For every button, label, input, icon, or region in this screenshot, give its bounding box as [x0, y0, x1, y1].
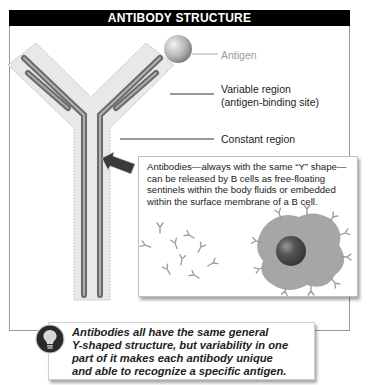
b-cell-illustration	[139, 205, 359, 297]
callout-line: and able to recognize a specific antigen…	[72, 365, 314, 378]
variable-region-sublabel: (antigen-binding site)	[221, 96, 319, 108]
b-cell-nucleus	[276, 236, 306, 266]
callout-text: Antibodies all have the same general Y-s…	[72, 326, 314, 378]
callout-line: Y-shaped structure, but variability in o…	[72, 339, 314, 352]
antigen-sphere	[164, 35, 192, 63]
info-line: can be released by B cells as free-float…	[147, 173, 355, 185]
info-line: sentinels within the body fluids or embe…	[147, 184, 355, 196]
callout-line: part of it makes each antibody unique	[72, 352, 314, 365]
info-line: Antibodies—always with the same “Y” shap…	[147, 161, 355, 173]
lightbulb-icon	[35, 324, 65, 354]
free-floating-antibodies	[140, 223, 218, 281]
variable-region-label: Variable region	[221, 83, 291, 95]
antibody-info-box: Antibodies—always with the same “Y” shap…	[138, 156, 358, 297]
key-concept-callout: Antibodies all have the same general Y-s…	[48, 322, 315, 380]
callout-line: Antibodies all have the same general	[72, 326, 314, 339]
b-cell	[252, 205, 351, 295]
info-text: Antibodies—always with the same “Y” shap…	[147, 161, 355, 207]
antigen-label: Antigen	[221, 49, 257, 61]
constant-region-label: Constant region	[221, 133, 295, 145]
